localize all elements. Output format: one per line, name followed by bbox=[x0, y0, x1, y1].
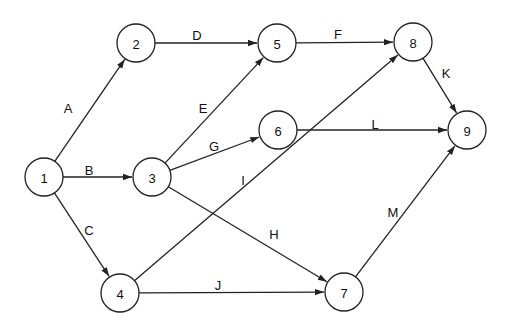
edge-d: D bbox=[155, 28, 257, 44]
node-3: 3 bbox=[133, 158, 171, 196]
node-label: 4 bbox=[116, 287, 123, 302]
edge-m: M bbox=[355, 146, 454, 277]
node-label: 5 bbox=[273, 37, 280, 52]
node-8: 8 bbox=[394, 23, 432, 61]
edge-label: G bbox=[209, 139, 219, 154]
node-5: 5 bbox=[258, 24, 296, 62]
node-label: 9 bbox=[463, 124, 470, 139]
arrow-icon bbox=[355, 146, 454, 277]
node-9: 9 bbox=[448, 111, 486, 149]
node-label: 7 bbox=[340, 286, 347, 301]
node-label: 1 bbox=[40, 171, 47, 186]
edge-label: E bbox=[199, 101, 208, 116]
edge-a: A bbox=[55, 59, 125, 161]
edge-label: D bbox=[192, 28, 201, 43]
edge-label: F bbox=[334, 27, 342, 42]
edge-label: H bbox=[269, 227, 278, 242]
node-label: 6 bbox=[274, 124, 281, 139]
edge-label: B bbox=[85, 163, 94, 178]
node-6: 6 bbox=[259, 111, 297, 149]
arrow-icon bbox=[139, 292, 324, 293]
edge-l: L bbox=[297, 117, 447, 132]
edge-g: G bbox=[170, 137, 259, 170]
edge-label: J bbox=[215, 278, 222, 293]
edge-c: C bbox=[54, 193, 109, 276]
edge-j: J bbox=[139, 278, 324, 293]
edge-k: K bbox=[423, 58, 457, 113]
arrow-icon bbox=[134, 55, 397, 281]
edge-h: H bbox=[168, 187, 327, 282]
edge-label: I bbox=[241, 173, 245, 188]
node-4: 4 bbox=[101, 274, 139, 312]
node-label: 3 bbox=[148, 171, 155, 186]
edges-layer: ABCDEGHIJFLKM bbox=[54, 27, 456, 293]
edge-label: C bbox=[84, 223, 93, 238]
edge-i: I bbox=[134, 55, 397, 281]
arrow-icon bbox=[168, 187, 327, 282]
node-2: 2 bbox=[117, 24, 155, 62]
edge-label: L bbox=[371, 117, 378, 132]
edge-label: M bbox=[388, 205, 399, 220]
node-7: 7 bbox=[325, 273, 363, 311]
edge-f: F bbox=[296, 27, 393, 43]
node-label: 8 bbox=[409, 36, 416, 51]
node-1: 1 bbox=[25, 158, 63, 196]
edge-label: K bbox=[442, 66, 451, 81]
arrow-icon bbox=[423, 58, 457, 113]
node-label: 2 bbox=[132, 37, 139, 52]
edge-b: B bbox=[63, 163, 132, 178]
network-diagram: ABCDEGHIJFLKM 123456789 bbox=[0, 0, 509, 333]
arrow-icon bbox=[54, 193, 109, 276]
edge-label: A bbox=[64, 101, 73, 116]
arrow-icon bbox=[296, 42, 393, 43]
